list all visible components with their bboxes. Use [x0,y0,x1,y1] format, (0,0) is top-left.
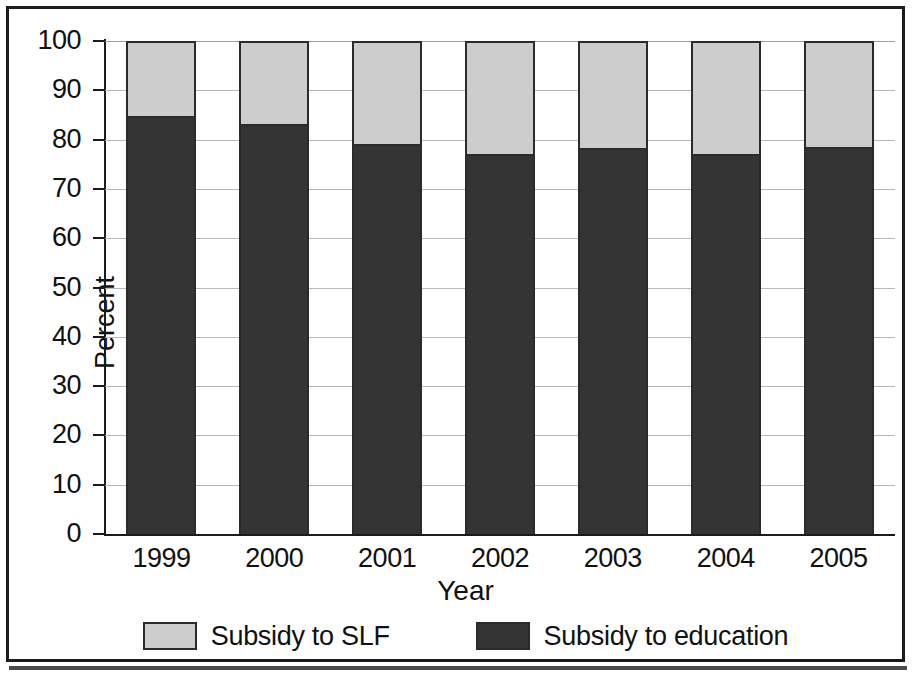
plot-area [105,41,895,534]
bar-segment-subsidy-to-education [691,154,761,534]
bar-segment-subsidy-to-education [578,148,648,535]
bar-segment-subsidy-to-education [239,124,309,534]
bar-group [804,41,874,534]
bar-segment-subsidy-to-education [352,144,422,534]
y-axis-tick-label: 30 [17,372,81,399]
bar-segment-subsidy-to-slf [352,41,422,144]
bar-segment-subsidy-to-slf [691,41,761,154]
y-axis-tick [93,484,105,486]
y-axis-tick [93,237,105,239]
bar-group [126,41,196,534]
figure-frame: Percent 0102030405060708090100 199920002… [6,6,905,662]
bar-segment-subsidy-to-slf [578,41,648,147]
x-axis-tick-label: 2005 [769,543,909,573]
bar-group [691,41,761,534]
legend-swatch-subsidy-education [476,622,530,650]
bar-group [465,41,535,534]
x-axis-title: Year [9,576,913,606]
legend-swatch-subsidy-slf [143,622,197,650]
y-axis-tick [93,434,105,436]
y-axis-tick-label: 80 [17,126,81,153]
y-axis-tick [93,40,105,42]
chart-legend: Subsidy to SLF Subsidy to education [9,622,913,650]
bar-group [352,41,422,534]
legend-label-subsidy-education: Subsidy to education [544,622,789,650]
y-axis-tick-label: 10 [17,471,81,498]
y-axis-tick [93,533,105,535]
y-axis-tick [93,336,105,338]
legend-item-subsidy-slf: Subsidy to SLF [143,622,390,650]
y-axis-tick [93,188,105,190]
y-axis-tick [93,139,105,141]
y-axis-tick [93,89,105,91]
bar-segment-subsidy-to-slf [465,41,535,154]
legend-label-subsidy-slf: Subsidy to SLF [211,622,390,650]
legend-item-subsidy-education: Subsidy to education [476,622,789,650]
y-axis-tick-label: 0 [17,520,81,547]
bar-group [578,41,648,534]
figure-frame-shadow [9,666,907,670]
y-axis-tick-label: 90 [17,76,81,103]
bar-group [239,41,309,534]
gridline [105,534,895,536]
bar-segment-subsidy-to-slf [126,41,196,116]
y-axis-tick-label: 50 [17,274,81,301]
y-axis-tick [93,287,105,289]
bar-segment-subsidy-to-education [465,154,535,534]
y-axis-tick-label: 40 [17,323,81,350]
bar-segment-subsidy-to-education [126,116,196,534]
bar-segment-subsidy-to-slf [239,41,309,124]
y-axis-tick [93,385,105,387]
y-axis-tick-label: 20 [17,421,81,448]
bar-segment-subsidy-to-education [804,147,874,534]
y-axis-tick-label: 60 [17,224,81,251]
y-axis-tick-label: 70 [17,175,81,202]
bar-segment-subsidy-to-slf [804,41,874,147]
y-axis-tick-label: 100 [17,27,81,54]
